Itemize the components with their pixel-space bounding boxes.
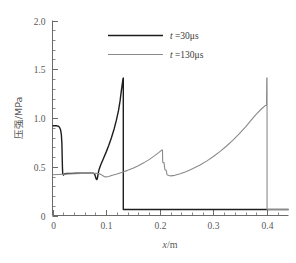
legend-label-t30: t =30μs — [170, 31, 199, 41]
y-tick-label: 1.5 — [34, 65, 46, 75]
pressure-vs-position-chart: 00.10.20.30.4 00.51.01.52.0 x/m 压强/MPa t… — [0, 0, 296, 263]
x-tick-label: 0.4 — [262, 221, 274, 231]
x-tick-label: 0 — [51, 221, 56, 231]
y-tick-label: 0 — [41, 212, 46, 222]
x-tick-label: 0.1 — [101, 221, 113, 231]
y-tick-label: 2.0 — [34, 17, 46, 27]
legend-label-t130: t =130μs — [170, 50, 204, 60]
x-axis-title: x/m — [161, 239, 177, 250]
chart-background — [0, 0, 296, 263]
y-axis-title: 压强/MPa — [13, 97, 24, 140]
y-tick-label: 0.5 — [34, 163, 46, 173]
chart-figure: 00.10.20.30.4 00.51.01.52.0 x/m 压强/MPa t… — [0, 0, 296, 263]
y-tick-label: 1.0 — [34, 114, 46, 124]
x-tick-label: 0.3 — [208, 221, 220, 231]
x-tick-label: 0.2 — [155, 221, 167, 231]
